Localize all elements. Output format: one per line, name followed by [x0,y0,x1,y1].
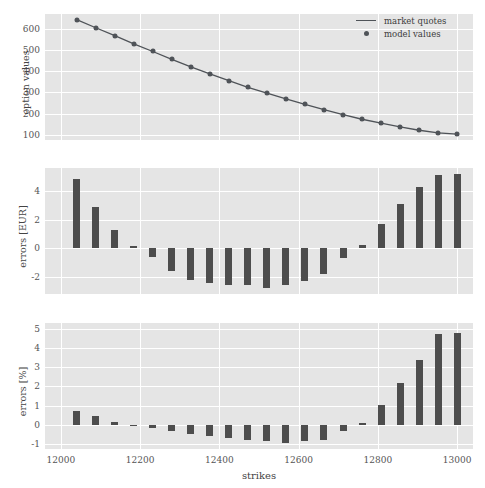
yaxis-label-errors-eur: errors [EUR] [17,187,28,287]
bar [282,425,289,443]
bar [187,425,194,434]
panel-option-values: 100200300400500600 option values market … [0,0,485,150]
bar [416,360,423,425]
gridline-vertical [378,323,379,449]
bar [320,248,327,274]
model-value-marker [74,17,79,22]
model-value-marker [112,33,117,38]
ytick-label: 4 [34,186,40,196]
model-value-marker [321,107,326,112]
yaxis-label-errors-pct: errors [%] [17,342,28,442]
model-value-marker [341,112,346,117]
model-value-marker [455,132,460,137]
bar [206,248,213,283]
bar [320,425,327,440]
xtick-label: 12000 [47,455,76,465]
gridline-horizontal [45,277,473,278]
bar [378,405,385,425]
model-value-marker [379,121,384,126]
model-value-marker [436,130,441,135]
legend-option-values: market quotes model values [355,14,446,40]
bar [168,248,175,271]
gridline-horizontal [45,191,473,192]
bar [149,425,156,428]
panel-errors-pct: -1012345 120001220012400126001280013000 … [0,305,485,488]
bar [73,411,80,425]
gridline-vertical [61,323,62,449]
gridline-horizontal [45,329,473,330]
ytick-label: 5 [34,324,40,334]
gridline-horizontal [45,248,473,249]
model-value-marker [417,128,422,133]
yaxis-label-option-values: option values [20,38,31,128]
gridline-vertical [299,323,300,449]
legend-entry-market-quotes: market quotes [355,14,446,27]
bar [340,425,347,431]
bar [244,425,251,440]
xaxis-label-strikes: strikes [45,470,473,481]
model-value-marker [283,96,288,101]
bar [378,224,385,248]
panel-errors-eur: -2024 errors [EUR] [0,150,485,305]
figure-canvas: 100200300400500600 option values market … [0,0,485,488]
bar [92,416,99,425]
bar [397,204,404,248]
bar [416,187,423,249]
legend-label-market-quotes: market quotes [384,16,446,26]
bar [263,248,270,287]
bar [225,425,232,438]
bar [397,383,404,425]
model-value-marker [360,117,365,122]
xtick-label: 12200 [126,455,155,465]
model-value-marker [302,102,307,107]
xtick-label: 12600 [284,455,313,465]
ytick-label: 3 [34,362,40,372]
bar [111,230,118,249]
bar [435,334,442,425]
legend-entry-model-values: model values [355,27,446,40]
gridline-horizontal [45,444,473,445]
bar [187,248,194,280]
bar [340,248,347,258]
model-value-marker [245,85,250,90]
model-value-marker [150,49,155,54]
model-value-marker [188,64,193,69]
gridline-horizontal [45,406,473,407]
bar [130,425,137,426]
gridline-vertical [61,168,62,294]
gridline-vertical [140,323,141,449]
model-value-marker [226,78,231,83]
plot-area-errors-pct [45,323,473,449]
ytick-label: 600 [23,24,40,34]
bar [301,248,308,281]
bar [359,245,366,249]
bar [282,248,289,285]
ytick-label: 2 [34,215,40,225]
bar [130,246,137,248]
gridline-horizontal [45,386,473,387]
bar [92,207,99,249]
bar [244,248,251,285]
model-value-marker [169,57,174,62]
bar [149,248,156,257]
model-value-marker [207,71,212,76]
xtick-label: 12400 [205,455,234,465]
legend-label-model-values: model values [384,29,441,39]
gridline-vertical [140,168,141,294]
ytick-label: 4 [34,343,40,353]
gridline-horizontal [45,425,473,426]
gridline-vertical [219,323,220,449]
bar [225,248,232,285]
bar [301,425,308,441]
gridline-horizontal [45,220,473,221]
ytick-label: 0 [34,243,40,253]
ytick-label: 0 [34,420,40,430]
bar [263,425,270,441]
ytick-label: 1 [34,401,40,411]
ytick-label: 2 [34,381,40,391]
model-value-marker [131,41,136,46]
bar [435,175,442,248]
bar [454,333,461,425]
bar [359,423,366,425]
ytick-label: 100 [23,130,40,140]
